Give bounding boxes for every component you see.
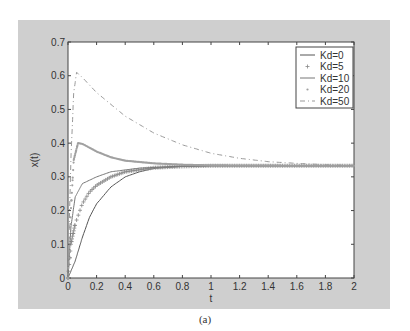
y-axis-label: x(t) <box>29 153 40 167</box>
legend-label: Kd=5 <box>320 61 344 72</box>
figure-caption: (a) <box>0 313 410 325</box>
y-tick-label: 0.2 <box>51 205 65 216</box>
x-tick-label: 1.4 <box>261 281 275 292</box>
legend: Kd=0Kd=5Kd=10Kd=20Kd=50 <box>296 47 353 108</box>
x-tick-label: 0.4 <box>118 281 132 292</box>
y-tick-label: 0.4 <box>51 138 65 149</box>
y-tick-label: 0.6 <box>51 70 65 81</box>
x-tick-label: 2 <box>351 281 357 292</box>
y-tick-label: 0.1 <box>51 239 65 250</box>
line-chart: 00.20.40.60.811.21.41.61.8200.10.20.30.4… <box>0 0 410 331</box>
legend-label: Kd=50 <box>320 96 350 107</box>
legend-label: Kd=20 <box>320 84 350 95</box>
legend-dot-icon <box>306 88 308 90</box>
y-tick-label: 0.5 <box>51 104 65 115</box>
x-tick-label: 0.2 <box>90 281 104 292</box>
x-tick-label: 1 <box>208 281 214 292</box>
y-tick-label: 0.3 <box>51 171 65 182</box>
x-axis-label: t <box>210 293 213 304</box>
x-tick-label: 0.8 <box>175 281 189 292</box>
x-tick-label: 0.6 <box>147 281 161 292</box>
x-tick-label: 1.8 <box>318 281 332 292</box>
y-tick-label: 0.7 <box>51 37 65 48</box>
x-tick-label: 1.2 <box>233 281 247 292</box>
legend-label: Kd=10 <box>320 73 350 84</box>
legend-label: Kd=0 <box>320 50 344 61</box>
y-tick-label: 0 <box>59 273 65 284</box>
x-tick-label: 1.6 <box>290 281 304 292</box>
x-tick-label: 0 <box>65 281 71 292</box>
